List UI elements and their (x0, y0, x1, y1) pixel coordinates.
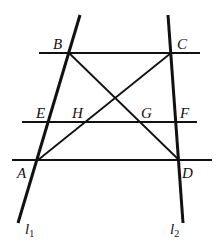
line-l1 (18, 15, 80, 223)
label-l2: l2 (170, 221, 179, 239)
diagonal-bd (69, 53, 179, 160)
label-b: B (53, 36, 62, 52)
label-c: C (177, 36, 188, 52)
label-a: A (16, 165, 27, 181)
label-l1: l1 (25, 221, 34, 239)
label-d: D (181, 165, 193, 181)
label-e: E (35, 105, 45, 121)
label-h: H (71, 105, 84, 121)
geometry-diagram: B C E H G F A D l1 l2 (0, 0, 222, 243)
label-f: F (179, 105, 190, 121)
label-g: G (141, 105, 152, 121)
